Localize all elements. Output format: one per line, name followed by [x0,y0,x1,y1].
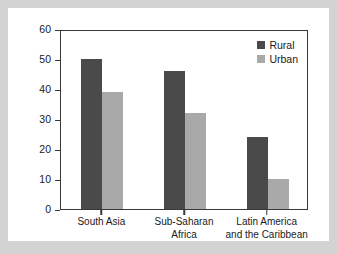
plot-inner: RuralUrban [61,31,307,209]
x-axis-tick-mark [101,210,103,215]
x-axis-category-label-line: Latin America [236,216,297,227]
legend-swatch-rural [257,41,265,49]
y-axis-tick-label: 60 [39,23,51,36]
legend-label-urban: Urban [269,53,298,65]
bar-group [164,31,206,209]
y-axis-tick-label: 0 [45,203,51,216]
bar-rural-0 [81,59,102,209]
legend-item-rural: Rural [257,39,298,51]
x-axis-category-label-line: Africa [155,229,214,242]
bar-urban-0 [102,92,123,209]
bar-urban-1 [185,113,206,209]
bar-rural-1 [164,71,185,209]
y-axis-tick-label: 50 [39,53,51,66]
y-axis-tick-label: 40 [39,83,51,96]
bar-rural-2 [247,137,268,209]
y-axis-tick-label: 10 [39,173,51,186]
bar-urban-2 [268,179,289,209]
y-axis-tick-label: 30 [39,113,51,126]
figure-outer-frame: 0102030405060 RuralUrban South AsiaSub-S… [0,0,337,254]
plot-area: RuralUrban [60,30,308,210]
legend-swatch-urban [257,55,265,63]
x-axis-tick-mark [183,210,185,215]
x-axis-tick-mark [266,210,268,215]
legend-label-rural: Rural [269,39,294,51]
x-axis-category-label: South Asia [77,216,125,229]
bar-group [81,31,123,209]
legend-item-urban: Urban [257,53,298,65]
x-axis-category-label-line: and the Caribbean [226,229,308,242]
y-axis-tick-label: 20 [39,143,51,156]
x-axis-category-label-line: South Asia [77,216,125,227]
legend: RuralUrban [257,39,298,65]
figure-panel: 0102030405060 RuralUrban South AsiaSub-S… [8,8,329,241]
y-axis: 0102030405060 [8,30,60,210]
x-axis-category-label-line: Sub-Saharan [155,216,214,227]
x-axis-category-label: Sub-SaharanAfrica [155,216,214,241]
x-axis-labels: South AsiaSub-SaharanAfricaLatin America… [60,216,308,250]
x-axis-category-label: Latin Americaand the Caribbean [226,216,308,241]
